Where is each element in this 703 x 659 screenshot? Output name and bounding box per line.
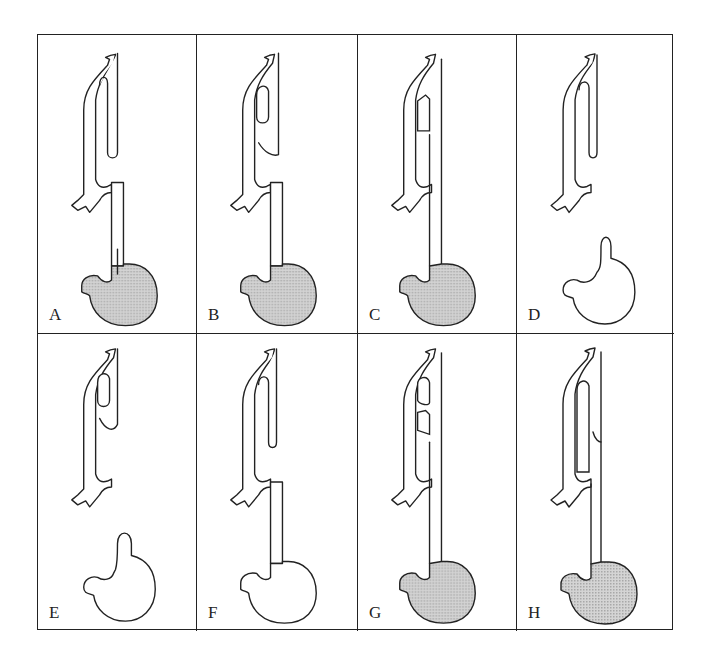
diagram-c — [358, 35, 516, 333]
panel-grid: A B C — [37, 34, 673, 630]
panel-f: F — [197, 334, 358, 631]
esophageal-atresia-figure: A B C — [0, 0, 703, 659]
panel-label-g: G — [369, 604, 381, 621]
panel-g: G — [358, 334, 517, 631]
diagram-b — [197, 35, 357, 333]
panel-label-a: A — [49, 306, 61, 323]
diagram-h — [517, 334, 674, 631]
panel-label-d: D — [528, 306, 540, 323]
panel-label-c: C — [369, 306, 380, 323]
panel-label-h: H — [528, 604, 540, 621]
diagram-e — [38, 334, 196, 631]
panel-label-b: B — [208, 306, 219, 323]
panel-label-e: E — [49, 604, 59, 621]
panel-label-f: F — [208, 604, 217, 621]
panel-e: E — [38, 334, 197, 631]
panel-c: C — [358, 35, 517, 334]
diagram-g — [358, 334, 516, 631]
diagram-f — [197, 334, 357, 631]
diagram-a — [38, 35, 196, 333]
panel-d: D — [517, 35, 674, 334]
diagram-d — [517, 35, 674, 333]
panel-a: A — [38, 35, 197, 334]
panel-b: B — [197, 35, 358, 334]
panel-h: H — [517, 334, 674, 631]
